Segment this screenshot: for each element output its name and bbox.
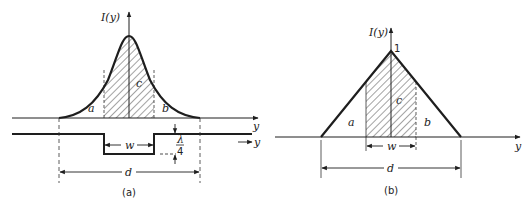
distance-label: d xyxy=(125,166,132,179)
x-axis-label: y xyxy=(514,140,522,153)
caption-b: (b) xyxy=(384,185,398,196)
region-label-c: c xyxy=(136,77,142,90)
region-label-a: a xyxy=(348,116,355,129)
peak-value-label: 1 xyxy=(394,43,400,54)
y-axis-label: I(y) xyxy=(100,11,120,24)
y-axis-label: I(y) xyxy=(368,26,388,39)
region-label-c: c xyxy=(396,94,402,107)
depth-label-denominator: 4 xyxy=(177,146,183,157)
depth-label-numerator: λ xyxy=(176,133,184,146)
region-label-a: a xyxy=(88,102,95,115)
width-label: w xyxy=(387,140,397,153)
distance-label: d xyxy=(387,162,394,175)
region-label-b: b xyxy=(162,102,169,115)
panel-a: I(y) y a c b y λ 4 w d (a) xyxy=(12,11,261,198)
width-label: w xyxy=(125,139,135,152)
panel-b: I(y) 1 y a c b w d (b) xyxy=(275,26,522,196)
step-axis-label: y xyxy=(253,136,261,149)
x-axis-label: y xyxy=(252,120,260,133)
diagram-canvas: I(y) y a c b y λ 4 w d (a) I xyxy=(0,0,531,205)
region-label-b: b xyxy=(424,116,431,129)
caption-a: (a) xyxy=(122,187,136,198)
